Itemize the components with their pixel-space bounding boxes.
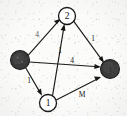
node-source-speck-2	[21, 61, 23, 63]
arrowhead-node1-node2	[61, 24, 66, 31]
graph-canvas: 2 1 t 4 1 1 4 1 M	[0, 0, 127, 116]
edge-line-source-sink	[30, 62, 99, 67]
arrowhead-source-node1	[37, 89, 42, 96]
node-1[interactable]: 1	[40, 95, 57, 112]
node-2-label: 2	[65, 11, 70, 21]
edge-line-source-node2	[28, 21, 59, 56]
edge-label-node1-sink: M	[79, 90, 86, 99]
edge-label-node2-sink: 1	[91, 34, 95, 43]
edge-label-source-node2: 4	[35, 30, 39, 39]
node-2[interactable]: 2	[59, 8, 76, 25]
edge-label-source-sink: 4	[70, 56, 74, 65]
node-1-label: 1	[46, 98, 51, 108]
edge-source-to-sink	[30, 62, 102, 69]
edge-line-node1-sink	[56, 78, 99, 100]
edge-line-node1-node2	[53, 27, 64, 96]
edge-node1-to-node2	[53, 24, 66, 95]
node-sink[interactable]: t	[101, 60, 120, 79]
node-source[interactable]	[11, 51, 30, 70]
edge-node2-to-sink	[74, 22, 104, 63]
edge-source-to-node2	[28, 19, 60, 56]
node-source-speck	[16, 56, 18, 58]
edge-line-node2-sink	[74, 22, 103, 61]
edge-label-source-node1: 1	[27, 76, 31, 85]
edge-label-node1-node2: 1	[58, 46, 62, 55]
graph-figure: 2 1 t 4 1 1 4 1 M	[0, 0, 127, 116]
